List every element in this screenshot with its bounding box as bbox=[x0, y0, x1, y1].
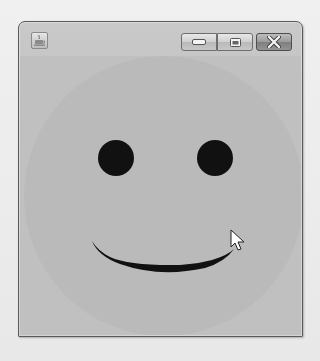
smiley-face bbox=[24, 56, 301, 335]
maximize-icon bbox=[230, 38, 241, 47]
mouse-cursor-arrow-icon bbox=[230, 229, 246, 253]
desktop bbox=[0, 0, 320, 361]
right-eye bbox=[197, 140, 233, 176]
drawing-canvas[interactable] bbox=[20, 56, 301, 335]
title-bar[interactable] bbox=[19, 22, 302, 56]
minimize-button[interactable] bbox=[181, 33, 217, 51]
minimize-icon bbox=[192, 39, 206, 45]
left-eye bbox=[98, 140, 134, 176]
app-window[interactable] bbox=[18, 21, 303, 337]
java-coffee-cup-icon[interactable] bbox=[31, 32, 48, 49]
maximize-button[interactable] bbox=[217, 33, 253, 51]
close-button[interactable] bbox=[256, 33, 292, 51]
close-icon bbox=[267, 36, 281, 48]
